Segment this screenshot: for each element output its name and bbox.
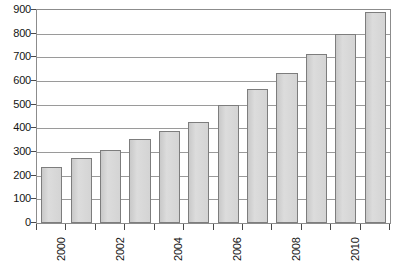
y-axis-tick-label: 0 — [3, 217, 31, 227]
x-axis-tick — [271, 224, 272, 230]
x-axis-tick — [95, 224, 96, 230]
x-axis-tick — [330, 224, 331, 230]
x-axis-tick — [360, 224, 361, 230]
bar-group — [37, 10, 390, 223]
bar — [365, 12, 386, 223]
y-axis-tick-label: 800 — [3, 28, 31, 38]
x-axis-tick-group — [36, 224, 391, 231]
bar — [335, 34, 356, 223]
x-axis-tick — [124, 224, 125, 230]
y-axis-tick-label: 400 — [3, 122, 31, 132]
x-axis-tick-label: 2000 — [55, 237, 67, 261]
y-axis-tick-label: 600 — [3, 75, 31, 85]
y-axis-label-group: 0100200300400500600700800900 — [0, 0, 31, 263]
bar — [247, 89, 268, 223]
bar — [41, 167, 62, 223]
bar — [71, 158, 92, 223]
x-axis-label-group: 200020022004200620082010 — [36, 231, 391, 263]
x-axis-tick — [301, 224, 302, 230]
plot-area — [36, 9, 391, 224]
bar — [100, 150, 121, 223]
bar — [188, 122, 209, 223]
x-axis-tick — [183, 224, 184, 230]
y-axis-tick-label: 900 — [3, 4, 31, 14]
y-axis-tick-label: 700 — [3, 51, 31, 61]
bar — [306, 54, 327, 223]
y-axis-tick-label: 100 — [3, 193, 31, 203]
x-axis-tick-label: 2006 — [231, 237, 243, 261]
x-axis-tick — [154, 224, 155, 230]
bar-chart: 0100200300400500600700800900 20002002200… — [0, 0, 398, 263]
bar — [276, 73, 297, 223]
y-axis-tick-label: 300 — [3, 146, 31, 156]
x-axis-tick — [242, 224, 243, 230]
x-axis-tick-label: 2010 — [349, 237, 361, 261]
x-axis-tick — [65, 224, 66, 230]
bar — [218, 105, 239, 223]
y-axis-tick-label: 200 — [3, 170, 31, 180]
x-axis-tick — [36, 224, 37, 230]
x-axis-tick-label: 2008 — [290, 237, 302, 261]
x-axis-tick — [213, 224, 214, 230]
x-axis-tick-label: 2002 — [114, 237, 126, 261]
y-axis-tick-label: 500 — [3, 99, 31, 109]
x-axis-tick — [389, 224, 390, 230]
x-axis-tick-label: 2004 — [172, 237, 184, 261]
bar — [159, 131, 180, 223]
bar — [129, 139, 150, 223]
